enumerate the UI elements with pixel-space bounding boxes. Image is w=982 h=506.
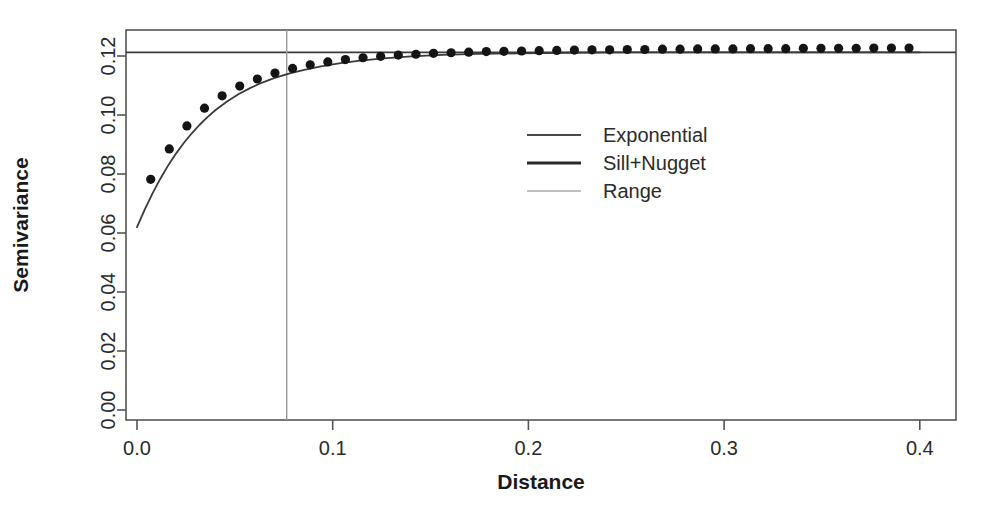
data-point [394, 51, 403, 60]
x-tick-label-3: 0.3 [710, 437, 738, 459]
y-tick-label-4: 0.08 [97, 155, 119, 194]
data-point [799, 44, 808, 53]
data-point [182, 121, 191, 130]
data-point [464, 48, 473, 57]
data-point [711, 44, 720, 53]
figure-root: 0.000.020.040.060.080.100.12 0.00.10.20.… [0, 0, 982, 506]
data-point [341, 55, 350, 64]
data-point [517, 46, 526, 55]
y-tick-label-6: 0.12 [97, 37, 119, 76]
data-point [429, 49, 438, 58]
data-point [623, 45, 632, 54]
data-point [235, 81, 244, 90]
x-tick-label-2: 0.2 [514, 437, 542, 459]
data-point [535, 46, 544, 55]
data-point [781, 44, 790, 53]
data-point [658, 45, 667, 54]
data-point [323, 57, 332, 66]
data-point [834, 44, 843, 53]
y-tick-label-2: 0.04 [97, 273, 119, 312]
data-point [499, 47, 508, 56]
data-point [253, 74, 262, 83]
y-axis-title: Semivariance [9, 157, 32, 292]
data-point [640, 45, 649, 54]
data-point [165, 144, 174, 153]
semivariogram-chart: 0.000.020.040.060.080.100.12 0.00.10.20.… [0, 0, 982, 506]
data-point [218, 91, 227, 100]
data-point [587, 45, 596, 54]
x-axis-title: Distance [497, 470, 585, 493]
x-tick-label-4: 0.4 [906, 437, 934, 459]
y-tick-label-3: 0.06 [97, 214, 119, 253]
data-point [570, 46, 579, 55]
data-point [447, 48, 456, 57]
data-point [746, 44, 755, 53]
data-point [358, 53, 367, 62]
data-point [376, 52, 385, 61]
data-point [869, 43, 878, 52]
y-tick-label-0: 0.00 [97, 391, 119, 430]
data-point [605, 45, 614, 54]
y-tick-label-5: 0.10 [97, 96, 119, 135]
data-point [306, 60, 315, 69]
x-tick-label-0: 0.0 [123, 437, 151, 459]
legend-label-sill-nugget: Sill+Nugget [603, 152, 706, 174]
y-tick-label-1: 0.02 [97, 332, 119, 371]
data-point [887, 43, 896, 52]
data-point [552, 46, 561, 55]
data-point [816, 44, 825, 53]
legend-label-exponential: Exponential [603, 124, 708, 146]
data-point [200, 104, 209, 113]
data-point [270, 69, 279, 78]
data-point [764, 44, 773, 53]
chart-background [0, 0, 982, 506]
data-point [146, 175, 155, 184]
x-tick-label-1: 0.1 [319, 437, 347, 459]
legend-label-range: Range [603, 180, 662, 202]
data-point [852, 44, 861, 53]
data-point [482, 47, 491, 56]
data-point [728, 44, 737, 53]
data-point [675, 45, 684, 54]
data-point [904, 43, 913, 52]
data-point [288, 64, 297, 73]
data-point [411, 50, 420, 59]
data-point [693, 44, 702, 53]
